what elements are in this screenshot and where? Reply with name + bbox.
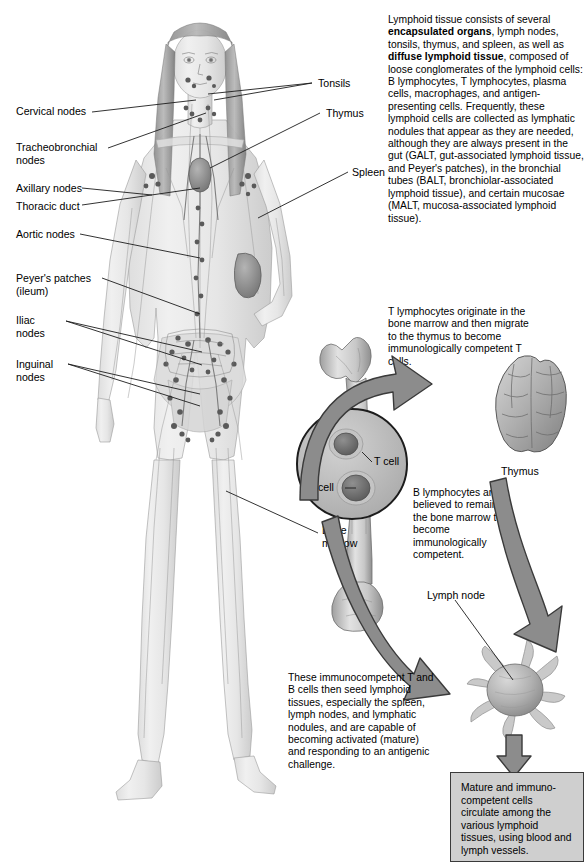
human-body-figure	[96, 8, 306, 798]
label-inguinal-nodes: Inguinal nodes	[16, 358, 53, 383]
label-spleen: Spleen	[352, 166, 385, 179]
intro-text-run: , composed of loose conglomerates of the…	[388, 51, 584, 223]
label-peyers-patches: Peyer's patches (ileum)	[16, 272, 91, 297]
spleen-organ	[234, 253, 261, 298]
diagram-canvas: Cervical nodes Tracheobronchial nodes Ax…	[0, 0, 588, 867]
body-svg	[96, 8, 306, 798]
label-tracheobronchial-nodes: Tracheobronchial nodes	[16, 141, 97, 166]
label-bone-marrow: Bone marrow	[322, 524, 357, 549]
label-axillary-nodes: Axillary nodes	[16, 182, 82, 195]
arrow-node-to-box	[497, 735, 531, 777]
label-iliac-nodes: Iliac nodes	[16, 314, 45, 339]
label-thoracic-duct: Thoracic duct	[16, 200, 80, 213]
label-aortic-nodes: Aortic nodes	[16, 228, 75, 241]
label-t-cell: T cell	[374, 455, 399, 468]
intro-bold-term: encapsulated organs	[388, 26, 491, 37]
intro-bold-term: diffuse lymphoid tissue	[388, 51, 503, 62]
caption-lymph-node: Lymph node	[427, 589, 485, 601]
label-tonsils: Tonsils	[318, 77, 350, 90]
b-lymphocyte-paragraph: B lymphocytes are believed to remain in …	[413, 487, 521, 561]
label-thymus-body: Thymus	[326, 107, 364, 120]
caption-thymus: Thymus	[501, 465, 539, 477]
final-summary-box: Mature and immuno-competent cells circul…	[450, 772, 584, 862]
label-b-cell: B cell	[308, 481, 334, 494]
thymus-organ-body	[189, 158, 211, 192]
label-cervical-nodes: Cervical nodes	[16, 105, 86, 118]
intro-text-run: Lymphoid tissue consists of several	[388, 14, 550, 25]
seed-paragraph: These immunocompetent T and B cells then…	[288, 672, 434, 771]
lymph-node-illustration	[463, 636, 567, 740]
thymus-illustration	[488, 352, 580, 460]
intro-paragraph: Lymphoid tissue consists of several enca…	[388, 14, 584, 225]
final-summary-text: Mature and immuno-competent cells circul…	[461, 782, 573, 857]
